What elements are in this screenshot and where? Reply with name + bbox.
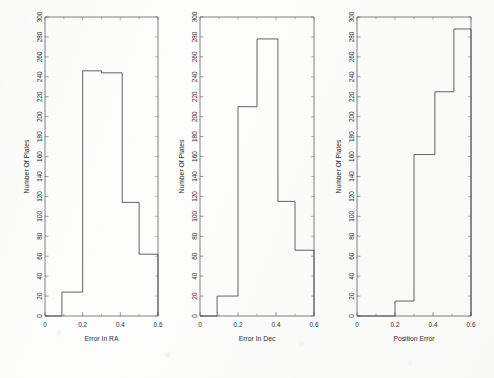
y-tick-label: 260	[348, 51, 355, 62]
y-tick-label: 300	[348, 11, 355, 22]
y-tick-label: 280	[348, 31, 355, 42]
y-tick-label: 140	[348, 171, 355, 182]
y-tick-label: 60	[348, 252, 355, 260]
x-axis-title: Position Error	[393, 335, 435, 342]
y-tick-label: 80	[348, 232, 355, 240]
y-tick-label: 0	[348, 314, 355, 318]
histogram-panel-3: 0204060801001201401601802002202402602803…	[0, 0, 494, 378]
histogram-outline	[357, 29, 471, 316]
y-tick-label: 120	[348, 191, 355, 202]
y-tick-label: 20	[348, 292, 355, 300]
y-tick-label: 200	[348, 111, 355, 122]
y-axis-title: Number Of Plates	[335, 139, 342, 194]
histogram-figure: 0204060801001201401601802002202402602803…	[0, 0, 494, 378]
y-tick-label: 240	[348, 71, 355, 82]
y-tick-label: 180	[348, 131, 355, 142]
x-tick-label: 0.6	[467, 321, 476, 328]
histogram-panel-row: 0204060801001201401601802002202402602803…	[0, 0, 494, 378]
y-tick-label: 40	[348, 272, 355, 280]
x-tick-label: 0.2	[391, 321, 400, 328]
y-tick-label: 160	[348, 151, 355, 162]
y-tick-label: 100	[348, 211, 355, 222]
x-tick-label: 0.4	[429, 321, 438, 328]
x-tick-label: 0	[355, 321, 359, 328]
y-tick-label: 220	[348, 91, 355, 102]
